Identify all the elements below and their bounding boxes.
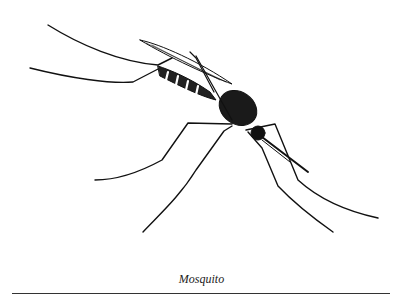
leg-4 (143, 126, 232, 232)
thorax (212, 83, 263, 132)
proboscis (262, 137, 308, 172)
figure-caption: Mosquito (0, 272, 403, 287)
caption-rule (12, 293, 390, 294)
leg-5 (246, 124, 378, 218)
leg-6 (248, 132, 333, 232)
leg-3 (95, 123, 232, 180)
mosquito-illustration (0, 0, 403, 260)
front-leg-2 (30, 68, 160, 82)
